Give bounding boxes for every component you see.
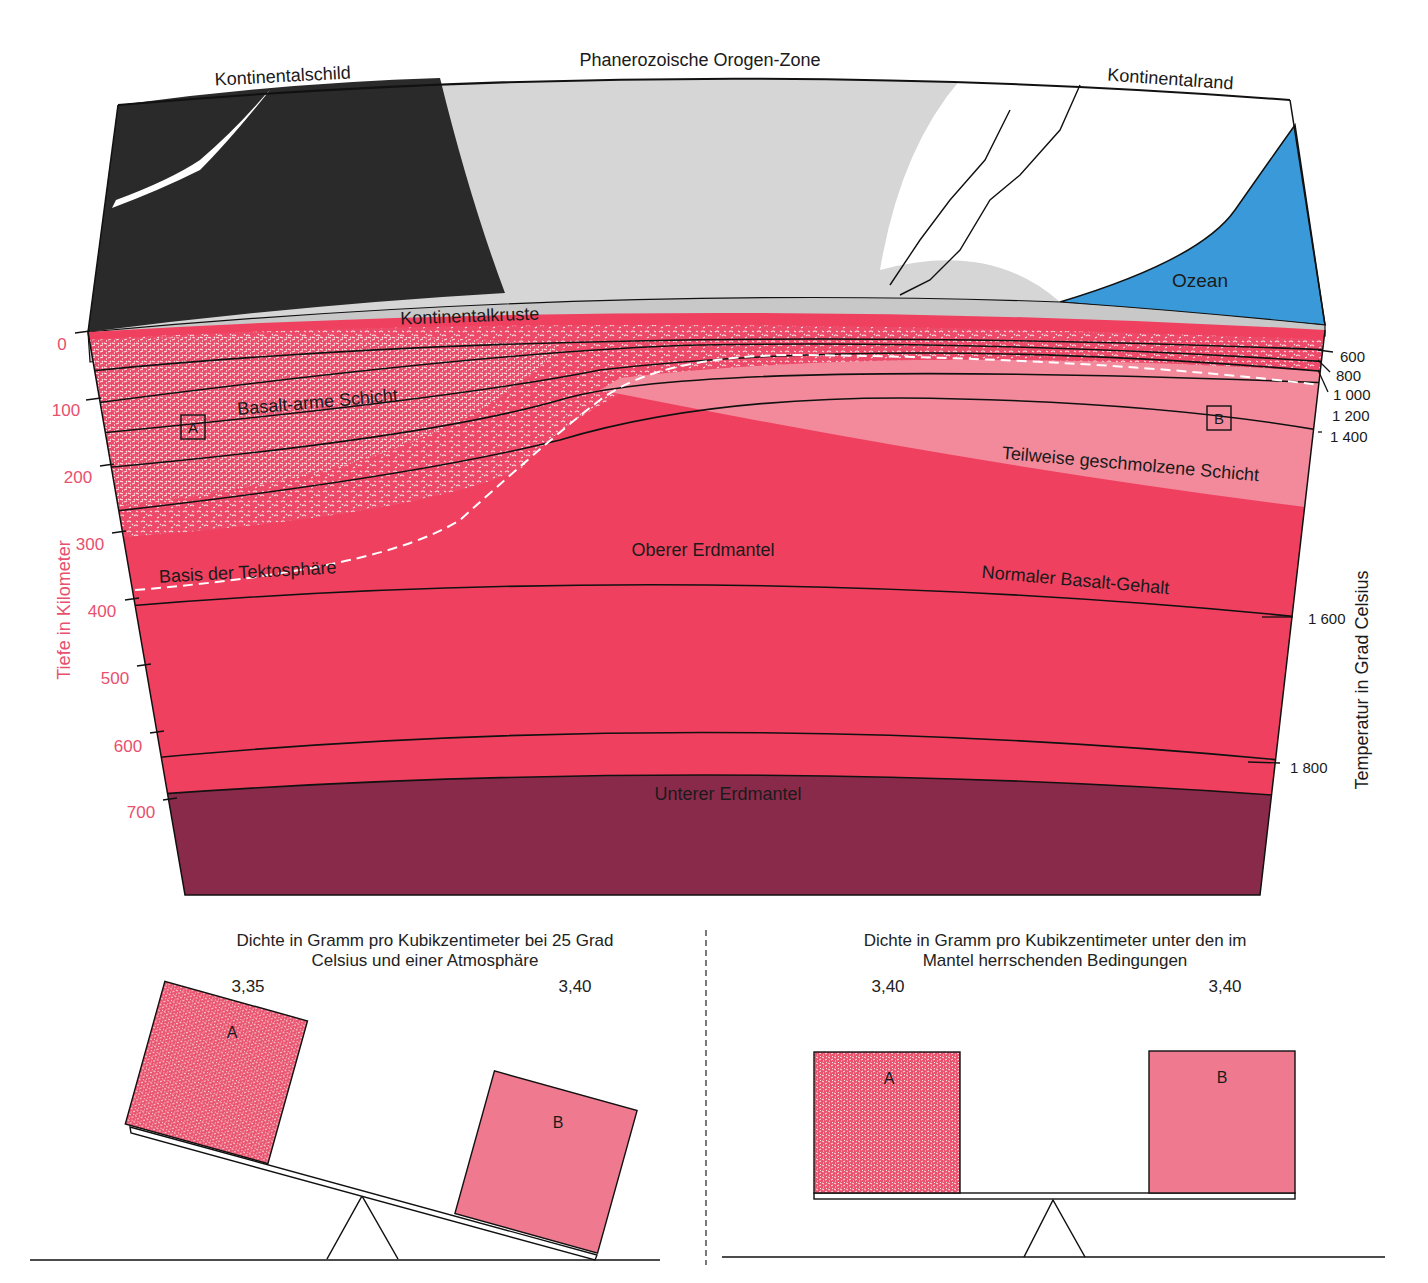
fulcrum [1024, 1200, 1085, 1257]
svg-text:200: 200 [64, 468, 92, 487]
svg-text:A: A [227, 1024, 238, 1041]
svg-text:400: 400 [88, 602, 116, 621]
svg-text:3,40: 3,40 [1208, 977, 1241, 996]
fulcrum [327, 1196, 398, 1259]
svg-text:1 200: 1 200 [1332, 407, 1370, 424]
svg-text:Celsius und einer Atmosphäre: Celsius und einer Atmosphäre [312, 951, 539, 970]
svg-text:Mantel herrschenden Bedingunge: Mantel herrschenden Bedingungen [923, 951, 1188, 970]
svg-text:Dichte in Gramm pro Kubikzenti: Dichte in Gramm pro Kubikzentimeter bei … [237, 931, 614, 950]
label-lower-mantle: Unterer Erdmantel [654, 784, 801, 804]
earth-cross-section-diagram: A B Kontinentalschild Phanerozoische Oro… [0, 0, 1428, 1283]
svg-text:Dichte in Gramm pro Kubikzenti: Dichte in Gramm pro Kubikzentimeter unte… [864, 931, 1247, 950]
svg-text:300: 300 [76, 535, 104, 554]
level-beam [814, 1193, 1295, 1199]
svg-text:1 400: 1 400 [1330, 428, 1368, 445]
svg-text:700: 700 [127, 803, 155, 822]
svg-text:3,35: 3,35 [231, 977, 264, 996]
svg-text:1 600: 1 600 [1308, 610, 1346, 627]
svg-text:100: 100 [52, 401, 80, 420]
svg-text:A: A [884, 1070, 895, 1087]
svg-text:B: B [553, 1114, 564, 1131]
svg-text:600: 600 [114, 737, 142, 756]
balance-right: Dichte in Gramm pro Kubikzentimeter unte… [722, 931, 1385, 1257]
label-ocean: Ozean [1172, 270, 1228, 291]
depth-axis-title: Tiefe in Kilometer [54, 540, 74, 679]
svg-text:1 800: 1 800 [1290, 759, 1328, 776]
svg-text:0: 0 [57, 335, 66, 354]
balance-left: Dichte in Gramm pro Kubikzentimeter bei … [30, 931, 660, 1260]
svg-text:B: B [1214, 410, 1224, 427]
mantle-section [80, 290, 1340, 910]
label-orogen: Phanerozoische Orogen-Zone [579, 50, 820, 70]
svg-text:600: 600 [1340, 348, 1365, 365]
svg-text:500: 500 [101, 669, 129, 688]
svg-text:1 000: 1 000 [1333, 386, 1371, 403]
svg-text:800: 800 [1336, 367, 1361, 384]
svg-text:3,40: 3,40 [558, 977, 591, 996]
svg-text:A: A [188, 419, 198, 436]
svg-text:3,40: 3,40 [871, 977, 904, 996]
temperature-axis-title: Temperatur in Grad Celsius [1352, 570, 1372, 789]
svg-text:B: B [1217, 1069, 1228, 1086]
continental-shield [88, 78, 505, 332]
label-upper-mantle: Oberer Erdmantel [631, 540, 774, 560]
